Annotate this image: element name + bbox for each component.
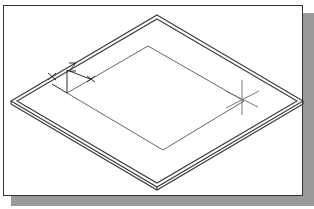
isometric-drawing bbox=[0, 0, 314, 209]
crosshair-icon bbox=[226, 80, 259, 115]
plate-outline bbox=[11, 15, 303, 190]
sketch-rectangle bbox=[67, 46, 244, 150]
ucs-icon bbox=[48, 63, 95, 93]
